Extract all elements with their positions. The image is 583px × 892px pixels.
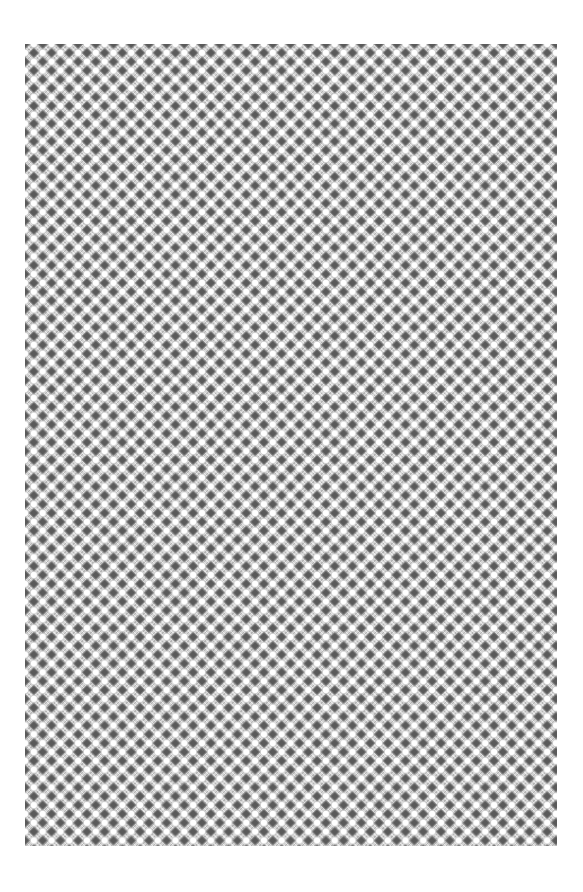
pattern-fill	[25, 44, 557, 846]
pattern-panel	[25, 44, 557, 846]
motif-layer	[25, 44, 557, 846]
